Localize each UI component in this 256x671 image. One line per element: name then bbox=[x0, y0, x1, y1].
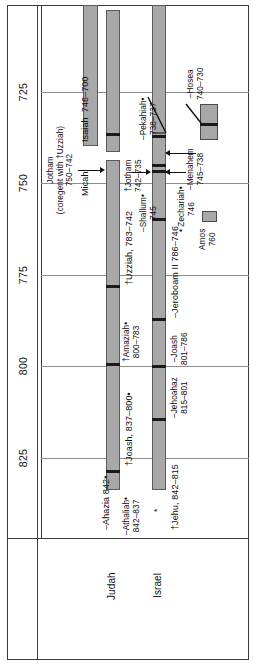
box-amos bbox=[202, 211, 217, 222]
row-header-israel: Israel bbox=[152, 573, 164, 598]
hosea-leader-line bbox=[0, 0, 256, 671]
row-header-judah: Judah bbox=[106, 572, 118, 600]
timeline-chart: 725 750 775 800 825 Isaiah 746–700 Micah… bbox=[0, 0, 256, 671]
label-amos: Amos 760 bbox=[198, 229, 217, 250]
